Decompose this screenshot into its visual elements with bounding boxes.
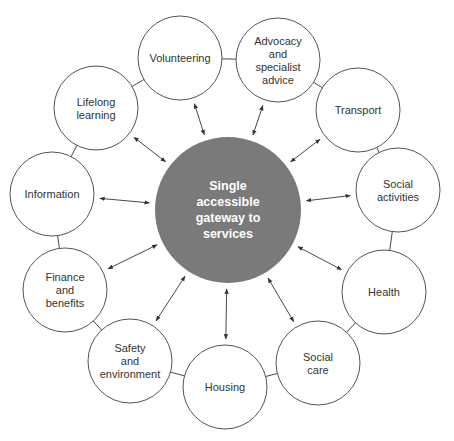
node-health: Health bbox=[342, 250, 426, 334]
arrow-health-to-center bbox=[298, 247, 342, 270]
node-social-care: Socialcare bbox=[276, 321, 360, 405]
node-advocacy: Advocacyandspecialistadvice bbox=[236, 18, 320, 102]
hub-circle bbox=[155, 137, 301, 283]
node-housing: Housing bbox=[183, 345, 267, 429]
central-gateway: Singleaccessiblegateway toservices bbox=[155, 137, 301, 283]
node-label: specialist bbox=[255, 61, 300, 73]
node-label: Advocacy bbox=[254, 35, 302, 47]
arrow-information-to-center bbox=[100, 198, 150, 203]
node-label: Social bbox=[303, 351, 333, 363]
node-label: Safety bbox=[114, 342, 146, 354]
node-label: Information bbox=[24, 188, 79, 200]
node-label: environment bbox=[100, 368, 161, 380]
arrow-transport-to-center bbox=[291, 139, 320, 162]
node-label: care bbox=[307, 364, 328, 376]
hub-label: services bbox=[203, 227, 253, 241]
arrow-lifelong-learning-to-center bbox=[134, 137, 166, 161]
node-label: advice bbox=[262, 74, 294, 86]
node-label: Lifelong bbox=[77, 96, 116, 108]
node-label: activities bbox=[377, 191, 420, 203]
hub-label: Single bbox=[209, 179, 247, 193]
node-label: and bbox=[269, 48, 287, 60]
node-label: learning bbox=[76, 109, 115, 121]
node-label: Finance bbox=[45, 271, 84, 283]
node-label: Health bbox=[368, 286, 400, 298]
node-label: benefits bbox=[46, 297, 85, 309]
arrow-housing-to-center bbox=[226, 289, 227, 339]
node-transport: Transport bbox=[316, 68, 400, 152]
node-label: Housing bbox=[205, 381, 245, 393]
node-safety: Safetyandenvironment bbox=[88, 319, 172, 403]
arrow-volunteering-to-center bbox=[194, 104, 204, 135]
node-social-activities: Socialactivities bbox=[356, 148, 440, 232]
arrow-safety-to-center bbox=[156, 276, 185, 320]
node-label: and bbox=[121, 355, 139, 367]
node-label: Social bbox=[383, 178, 413, 190]
service-gateway-diagram: VolunteeringAdvocacyandspecialistadviceT… bbox=[0, 0, 454, 441]
node-finance: Financeandbenefits bbox=[23, 248, 107, 332]
hub-label: accessible bbox=[196, 195, 259, 209]
arrow-advocacy-to-center bbox=[253, 106, 263, 136]
hub-label: gateway to bbox=[196, 211, 261, 225]
node-volunteering: Volunteering bbox=[138, 16, 222, 100]
arrow-social-care-to-center bbox=[268, 278, 294, 322]
node-label: Volunteering bbox=[149, 52, 210, 64]
node-lifelong-learning: Lifelonglearning bbox=[54, 66, 138, 150]
arrow-finance-to-center bbox=[108, 245, 157, 269]
arrow-social-activities-to-center bbox=[306, 196, 350, 201]
node-label: Transport bbox=[335, 104, 382, 116]
node-information: Information bbox=[10, 152, 94, 236]
node-label: and bbox=[56, 284, 74, 296]
